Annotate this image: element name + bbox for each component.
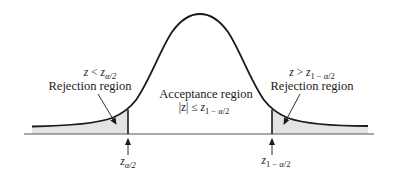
- right-critical-value-label: z1 − α/2: [261, 154, 291, 169]
- acceptance-condition: |z| ≤ z1 − α/2: [179, 101, 230, 116]
- left-critical-value-label: zα/2: [119, 155, 136, 170]
- acceptance-label: Acceptance region: [159, 87, 253, 101]
- right-rejection-label: Rejection region: [271, 79, 355, 93]
- normal-distribution-diagram: z < zα/2 Rejection region Acceptance reg…: [0, 0, 397, 178]
- left-rejection-area: [32, 110, 128, 135]
- left-rejection-label: Rejection region: [49, 79, 133, 93]
- right-rejection-area: [272, 110, 368, 135]
